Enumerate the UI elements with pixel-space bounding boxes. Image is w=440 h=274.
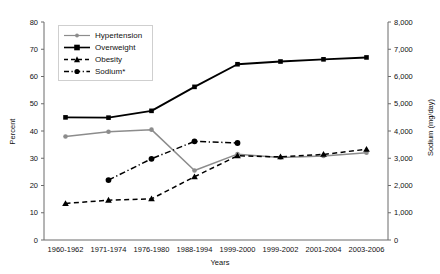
chart-legend: Hypertension Overweight Obesity Sodium* — [58, 25, 153, 81]
data-point-marker — [149, 127, 154, 132]
x-tick-label: 1988-1994 — [177, 245, 213, 254]
x-tick-label: 1960-1962 — [48, 245, 84, 254]
y-tick-label: 60 — [30, 72, 38, 81]
data-point-marker — [192, 138, 198, 144]
data-point-marker — [149, 109, 154, 114]
legend-item-overweight: Overweight — [63, 41, 147, 53]
series-line — [66, 130, 367, 171]
series-hypertension — [63, 127, 369, 172]
x-tick-label: 1999-2000 — [220, 245, 256, 254]
data-point-marker — [106, 177, 112, 183]
data-point-marker — [192, 168, 197, 173]
y-tick-label: 80 — [30, 18, 38, 27]
legend-key-hypertension — [63, 30, 91, 41]
legend-item-obesity: Obesity — [63, 53, 147, 65]
series-line — [109, 141, 238, 180]
y-tick-label: 10 — [30, 208, 38, 217]
y-tick-label: 40 — [30, 127, 38, 136]
data-point-marker — [106, 130, 111, 135]
x-tick-label: 1971-1974 — [91, 245, 127, 254]
data-point-marker — [321, 57, 326, 62]
legend-item-sodium: Sodium* — [63, 65, 147, 77]
data-point-marker — [364, 55, 369, 60]
y2-tick-label: 2,000 — [394, 181, 413, 190]
data-point-marker — [149, 156, 155, 162]
data-point-marker — [106, 115, 111, 120]
y2-tick-label: 5,000 — [394, 99, 413, 108]
data-point-marker — [192, 85, 197, 90]
chart-figure: Percent Sodium (mg/day) Years 0102030405… — [0, 0, 440, 274]
y-tick-label: 20 — [30, 181, 38, 190]
legend-key-overweight — [63, 42, 91, 53]
x-tick-label: 2001-2004 — [306, 245, 342, 254]
y2-tick-label: 3,000 — [394, 154, 413, 163]
legend-key-sodium — [63, 66, 91, 77]
y-tick-label: 50 — [30, 99, 38, 108]
legend-label-sodium: Sodium* — [95, 66, 125, 77]
x-tick-label: 1999-2002 — [263, 245, 299, 254]
y2-tick-label: 4,000 — [394, 127, 413, 136]
legend-item-hypertension: Hypertension — [63, 29, 147, 41]
y2-tick-label: 8,000 — [394, 18, 413, 27]
data-point-marker — [235, 140, 241, 146]
legend-label-obesity: Obesity — [95, 54, 122, 65]
y-tick-label: 70 — [30, 45, 38, 54]
data-point-marker — [63, 115, 68, 120]
legend-key-obesity — [63, 54, 91, 65]
series-line — [66, 149, 367, 203]
series-obesity — [62, 146, 370, 206]
x-tick-label: 2003-2006 — [349, 245, 385, 254]
legend-label-overweight: Overweight — [95, 42, 135, 53]
y-tick-label: 30 — [30, 154, 38, 163]
x-tick-label: 1976-1980 — [134, 245, 170, 254]
data-point-marker — [278, 59, 283, 64]
y2-tick-label: 7,000 — [394, 45, 413, 54]
y-tick-label: 0 — [34, 236, 38, 245]
data-point-marker — [235, 62, 240, 67]
legend-label-hypertension: Hypertension — [95, 30, 142, 41]
y2-tick-label: 0 — [394, 236, 398, 245]
y2-tick-label: 1,000 — [394, 208, 413, 217]
data-point-marker — [363, 146, 370, 152]
data-point-marker — [63, 134, 68, 139]
y2-tick-label: 6,000 — [394, 72, 413, 81]
